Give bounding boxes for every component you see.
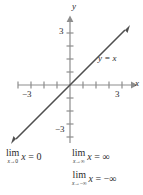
limit-body-variable: x bbox=[89, 173, 93, 184]
limit-subscript-target: 0 bbox=[15, 158, 18, 164]
limit-equals-sign: = bbox=[94, 151, 100, 162]
y-axis-tick-label-3: 3 bbox=[59, 27, 64, 36]
limit-operator-stack: lim x→0 bbox=[6, 148, 19, 164]
limit-figure: y x 3 −3 −3 3 y = x lim x→0 x = 0 lim x→… bbox=[0, 0, 143, 195]
limit-expression-x-to-negative-infinity: lim x→−∞ x = −∞ bbox=[72, 170, 116, 188]
limit-operator: lim bbox=[6, 148, 19, 158]
y-axis-tick-label-negative-3: −3 bbox=[55, 125, 65, 134]
limit-operator: lim bbox=[72, 170, 87, 180]
limit-body: x = −∞ bbox=[89, 174, 117, 184]
limits-section: lim x→0 x = 0 lim x→∞ x = ∞ lim x→ bbox=[0, 148, 143, 195]
limit-subscript: x→−∞ bbox=[72, 180, 87, 186]
limit-result: 0 bbox=[36, 151, 41, 162]
limit-body: x = ∞ bbox=[87, 152, 109, 162]
x-axis-label: x bbox=[135, 79, 139, 88]
limit-body: x = 0 bbox=[21, 152, 41, 162]
limit-expression-x-to-infinity: lim x→∞ x = ∞ bbox=[72, 148, 116, 166]
limits-left-column: lim x→0 x = 0 bbox=[6, 148, 41, 170]
y-axis-label: y bbox=[72, 2, 76, 11]
limit-operator-stack: lim x→∞ bbox=[72, 148, 85, 164]
identity-line-arrowhead-end bbox=[125, 25, 130, 33]
limit-body-variable: x bbox=[21, 151, 25, 162]
limit-equals-sign: = bbox=[28, 151, 34, 162]
limit-subscript-target: ∞ bbox=[81, 158, 85, 164]
limits-right-column: lim x→∞ x = ∞ lim x→−∞ x = −∞ bbox=[72, 148, 116, 192]
coordinate-plot bbox=[0, 0, 143, 150]
limit-subscript-target: −∞ bbox=[80, 180, 87, 186]
limit-equals-sign: = bbox=[96, 173, 102, 184]
identity-line-arrowhead-start bbox=[11, 136, 16, 144]
limit-operator-stack: lim x→−∞ bbox=[72, 170, 87, 186]
limit-result: −∞ bbox=[104, 173, 117, 184]
limit-body-variable: x bbox=[87, 151, 91, 162]
x-axis-tick-label-negative-3: −3 bbox=[22, 90, 32, 99]
limit-subscript: x→∞ bbox=[72, 158, 85, 164]
limit-subscript: x→0 bbox=[6, 158, 19, 164]
limit-expression-x-to-0: lim x→0 x = 0 bbox=[6, 148, 41, 166]
y-axis-arrowhead bbox=[67, 16, 74, 23]
limit-operator: lim bbox=[72, 148, 85, 158]
x-axis-tick-label-3: 3 bbox=[115, 90, 120, 99]
line-equation-label: y = x bbox=[98, 54, 117, 63]
limit-result: ∞ bbox=[102, 151, 109, 162]
